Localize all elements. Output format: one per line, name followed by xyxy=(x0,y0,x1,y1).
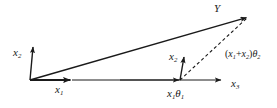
label-x1-theta1: x1θ1 xyxy=(167,88,184,99)
x2-origin-vector xyxy=(30,47,33,80)
label-x2-second: x2 xyxy=(169,51,177,62)
Y-resultant-vector xyxy=(30,18,247,80)
label-sum-theta2: (x1+x2)θ2 xyxy=(225,49,260,59)
label-x3-axis: x3 xyxy=(231,78,239,89)
label-x2-origin: x2 xyxy=(13,47,21,58)
x2-second-vector xyxy=(180,57,184,80)
label-Y-resultant: Y xyxy=(214,3,220,14)
label-x1: x1 xyxy=(55,84,63,95)
vector-decomposition-figure: x2 x1 x2 x1θ1 x3 Y (x1+x2)θ2 xyxy=(0,0,277,108)
